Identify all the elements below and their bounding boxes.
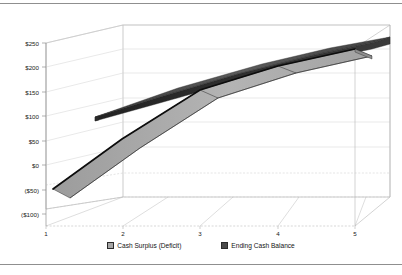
x-tick-label: 4 [276, 230, 280, 237]
x-tick-label: 5 [353, 230, 357, 237]
x-axis-ticks [46, 226, 355, 229]
x-axis-tick-labels: 1 2 3 4 5 [44, 230, 357, 237]
chart-canvas: $250 $200 $150 $100 $50 $0 ($50) ($100) … [0, 4, 402, 263]
y-tick-label: $0 [32, 162, 39, 169]
legend-label: Ending Cash Balance [231, 242, 294, 249]
x-tick-label: 2 [121, 230, 125, 237]
legend-label: Cash Surplus (Deficit) [117, 242, 181, 249]
y-tick-label: $100 [25, 113, 39, 120]
cash-flow-3d-area-chart: $250 $200 $150 $100 $50 $0 ($50) ($100) … [0, 4, 402, 263]
y-axis-tick-labels: $250 $200 $150 $100 $50 $0 ($50) ($100) [21, 40, 39, 218]
legend-item-ending-cash-balance[interactable]: Ending Cash Balance [221, 242, 294, 249]
x-tick-label: 3 [198, 230, 202, 237]
chart-page: $250 $200 $150 $100 $50 $0 ($50) ($100) … [0, 0, 402, 275]
y-tick-label: ($100) [21, 211, 39, 218]
y-tick-label: $50 [29, 138, 40, 145]
chart-legend: Cash Surplus (Deficit) Ending Cash Balan… [0, 238, 402, 252]
series-cash-surplus-deficit [53, 49, 372, 198]
y-tick-label: $200 [25, 64, 39, 71]
legend-swatch-icon [221, 242, 228, 249]
x-tick-label: 1 [44, 230, 48, 237]
clipped-header-text [228, 0, 396, 3]
y-tick-label: ($50) [25, 187, 39, 194]
y-axis-ticks [42, 43, 46, 214]
y-tick-label: $150 [25, 89, 39, 96]
legend-swatch-icon [107, 242, 114, 249]
legend-item-cash-surplus[interactable]: Cash Surplus (Deficit) [107, 242, 181, 249]
y-tick-label: $250 [25, 40, 39, 47]
page-rule-bottom [0, 264, 402, 265]
